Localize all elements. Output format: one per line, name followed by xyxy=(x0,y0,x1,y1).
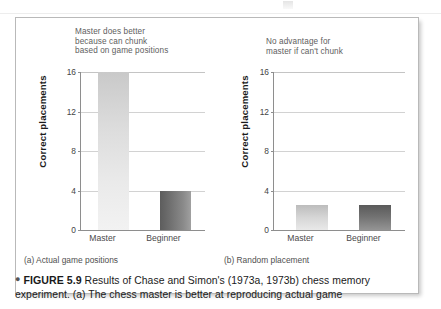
caption-line-1: Results of Chase and Simon's (1973a, 197… xyxy=(85,275,370,286)
bar-master-a xyxy=(98,72,129,230)
annotation-note-b: No advantage for master if can't chunk xyxy=(266,37,343,56)
scan-artifact-mark xyxy=(283,1,293,9)
y-tickmark-0-b xyxy=(271,230,274,231)
plot-area-b: 16 12 8 4 0 xyxy=(273,72,405,231)
charts-row: Master does better because can chunk bas… xyxy=(16,18,418,261)
figure-frame: Master does better because can chunk bas… xyxy=(15,17,419,294)
x-tick-master-a: Master xyxy=(78,233,127,243)
subcaption-a: (a) Actual game positions xyxy=(24,255,118,265)
scan-top-rule xyxy=(0,13,441,14)
figure-number: FIGURE 5.9 xyxy=(23,274,81,286)
bar-beginner-a xyxy=(160,191,191,231)
bars-a xyxy=(81,72,205,230)
y-tick-0-b: 0 xyxy=(264,225,269,235)
y-tickmark-0-a xyxy=(78,230,81,231)
x-tick-master-b: Master xyxy=(276,233,325,243)
x-tick-beginner-b: Beginner xyxy=(336,233,391,243)
subcaption-b: (b) Random placement xyxy=(224,255,309,265)
bar-master-b xyxy=(296,205,328,230)
caption-line-2: experiment. (a) The chess master is bett… xyxy=(15,289,342,300)
y-tick-16-a: 16 xyxy=(67,67,76,77)
y-tick-4-b: 4 xyxy=(264,186,269,196)
y-tick-12-a: 12 xyxy=(67,107,76,117)
bar-beginner-b xyxy=(359,205,391,230)
y-axis-label-b: Correct placements xyxy=(239,68,250,176)
caption-bullet-icon: ● xyxy=(15,274,21,284)
annotation-note-a: Master does better because can chunk bas… xyxy=(75,27,168,56)
y-tick-16-b: 16 xyxy=(260,67,269,77)
chart-panel-b: No advantage for master if can't chunk C… xyxy=(218,18,418,261)
plot-area-a: 16 12 8 4 0 xyxy=(80,72,205,231)
x-tick-beginner-a: Beginner xyxy=(136,233,191,243)
y-axis-label-a: Correct placements xyxy=(37,68,48,176)
y-tick-8-a: 8 xyxy=(71,146,76,156)
chart-panel-a: Master does better because can chunk bas… xyxy=(20,18,218,261)
y-tick-4-a: 4 xyxy=(71,186,76,196)
y-tick-12-b: 12 xyxy=(260,107,269,117)
figure-caption: ● FIGURE 5.9 Results of Chase and Simon'… xyxy=(15,272,427,303)
y-tick-8-b: 8 xyxy=(264,146,269,156)
y-tick-0-a: 0 xyxy=(71,225,76,235)
bars-b xyxy=(274,72,405,230)
